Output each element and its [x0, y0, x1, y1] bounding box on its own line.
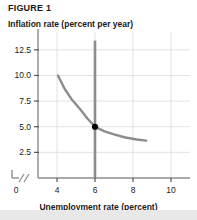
axis-break-slash [24, 174, 29, 182]
x-tick-label: 0 [14, 185, 19, 195]
bottom-band [0, 210, 197, 220]
y-tick-label: 7.5 [19, 96, 31, 106]
phillips-curve-plot: 2.55.07.510.012.5046810 [0, 0, 197, 220]
x-tick-label: 8 [131, 185, 136, 195]
y-tick-label: 5.0 [19, 122, 31, 132]
x-tick-label: 10 [166, 185, 176, 195]
y-tick-label: 12.5 [14, 45, 31, 55]
equilibrium-point [92, 124, 98, 130]
axes [38, 29, 190, 178]
y-tick-label: 2.5 [19, 147, 31, 157]
x-tick-label: 4 [55, 185, 60, 195]
axis-break-icon [12, 170, 29, 182]
axis-ticks [34, 50, 171, 182]
y-tick-label: 10.0 [14, 70, 31, 80]
figure-container: FIGURE 1 Inflation rate (percent per yea… [0, 0, 197, 220]
axis-break-slash [19, 174, 24, 182]
gridlines [38, 32, 190, 178]
x-tick-label: 6 [93, 185, 98, 195]
markers-layer [92, 124, 98, 130]
